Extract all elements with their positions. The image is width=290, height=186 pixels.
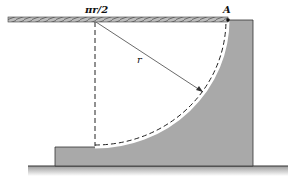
- top-beam: [8, 17, 228, 22]
- radius-label: r: [137, 54, 143, 65]
- point-a-label: A: [222, 4, 231, 15]
- radius-line: [96, 22, 203, 92]
- curved-ramp-body: [55, 20, 253, 166]
- ground-shadow: [28, 166, 288, 176]
- radius-arrowhead: [196, 86, 203, 92]
- ground: [28, 166, 288, 176]
- arc-length-label: πr/2: [84, 4, 108, 15]
- diagram-canvas: πr/2 r A: [0, 0, 290, 186]
- point-a-marker: [226, 18, 230, 22]
